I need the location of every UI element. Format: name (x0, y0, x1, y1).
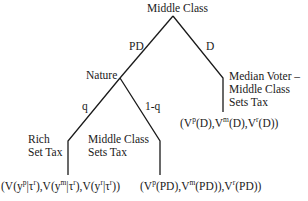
rich-line-1: Rich (28, 133, 62, 146)
branch-label-1-q: 1-q (145, 100, 160, 113)
median-voter-line-1: Median Voter – (229, 70, 300, 83)
median-voter-line-3: Sets Tax (229, 96, 300, 109)
edge-pd (120, 16, 173, 78)
branch-label-d: D (206, 40, 214, 53)
nature-node-label: Nature (86, 69, 117, 82)
branch-label-q: q (82, 100, 88, 113)
middle-class-sets-tax-label: Middle Class Sets Tax (88, 133, 149, 159)
edge-d (173, 16, 223, 112)
payoff-rich: (V(yp|τr),V(ym|τr),V(yr|τr)) (1, 180, 120, 193)
edge-q (68, 78, 120, 175)
root-node-label: Middle Class (147, 2, 208, 15)
rich-line-2: Set Tax (28, 146, 62, 159)
median-voter-line-2: Middle Class (229, 83, 300, 96)
edge-1-q (120, 78, 160, 175)
mc-sets-tax-line-1: Middle Class (88, 133, 149, 146)
payoff-middle-class-sets-tax: (Vp(PD),Vm(PD)),Vr(PD)) (140, 180, 261, 193)
mc-sets-tax-line-2: Sets Tax (88, 146, 149, 159)
rich-label: Rich Set Tax (28, 133, 62, 159)
branch-label-pd: PD (129, 40, 144, 53)
median-voter-label: Median Voter – Middle Class Sets Tax (229, 70, 300, 109)
payoff-median-voter: (Vp(D),Vm(D),Vr(D)) (180, 117, 278, 130)
